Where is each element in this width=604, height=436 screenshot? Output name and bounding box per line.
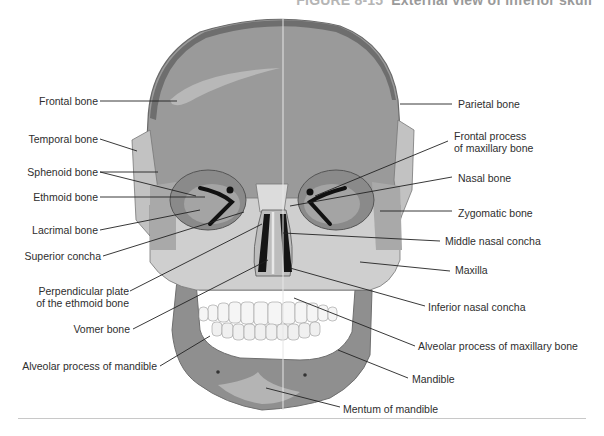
label-vomer-bone: Vomer bone xyxy=(73,323,130,335)
label-nasal-bone: Nasal bone xyxy=(458,172,511,184)
label-frontal-process: Frontal process of maxillary bone xyxy=(454,130,533,154)
zygomatic-right xyxy=(372,182,402,250)
label-alveolar-process-mandible: Alveolar process of mandible xyxy=(22,360,157,372)
label-sphenoid-bone: Sphenoid bone xyxy=(27,166,98,178)
mental-foramen-right xyxy=(303,373,307,377)
label-frontal-process-line2: of maxillary bone xyxy=(454,142,533,154)
bottom-divider xyxy=(18,418,586,419)
label-parietal-bone: Parietal bone xyxy=(458,98,520,110)
label-middle-nasal-concha: Middle nasal concha xyxy=(445,235,541,247)
label-alveolar-process-maxillary: Alveolar process of maxillary bone xyxy=(418,340,578,352)
foramen-left xyxy=(227,187,234,194)
label-superior-concha: Superior concha xyxy=(25,250,101,262)
label-perpendicular-plate-line2: of the ethmoid bone xyxy=(36,297,129,309)
label-lacrimal-bone: Lacrimal bone xyxy=(32,224,98,236)
label-frontal-bone: Frontal bone xyxy=(39,95,98,107)
label-mentum-of-mandible: Mentum of mandible xyxy=(343,403,438,415)
teeth-upper xyxy=(199,302,337,325)
foramen-right xyxy=(307,189,314,196)
label-perpendicular-plate: Perpendicular plate of the ethmoid bone xyxy=(36,285,129,309)
label-zygomatic-bone: Zygomatic bone xyxy=(458,207,533,219)
label-temporal-bone: Temporal bone xyxy=(29,133,98,145)
label-ethmoid-bone: Ethmoid bone xyxy=(33,191,98,203)
label-inferior-nasal-concha: Inferior nasal concha xyxy=(428,301,525,313)
label-mandible: Mandible xyxy=(412,373,455,385)
label-frontal-process-line1: Frontal process xyxy=(454,130,533,142)
label-perpendicular-plate-line1: Perpendicular plate xyxy=(36,285,129,297)
mental-foramen-left xyxy=(216,370,220,374)
label-maxilla: Maxilla xyxy=(455,264,488,276)
